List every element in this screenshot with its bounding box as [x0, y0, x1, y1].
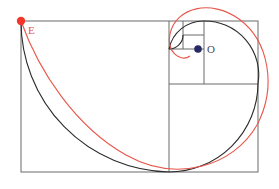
point-o-label: O	[207, 43, 215, 55]
diagram-canvas: E O	[0, 0, 279, 189]
point-e-label: E	[28, 24, 35, 36]
red-dot-marker	[17, 17, 25, 25]
golden-spiral-diagram: E O	[0, 0, 279, 189]
logarithmic-spiral	[21, 8, 268, 169]
fibonacci-arc-medium	[169, 84, 258, 172]
fibonacci-arc-large	[21, 21, 169, 172]
blue-dot-marker	[194, 45, 202, 53]
outer-rectangle	[21, 21, 258, 172]
